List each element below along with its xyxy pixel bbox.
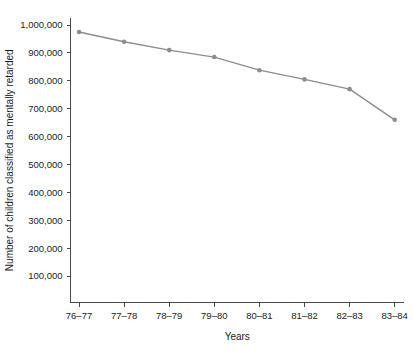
x-axis-tick-label: 80–81 bbox=[246, 310, 272, 321]
x-axis-tick-label: 79–80 bbox=[201, 310, 227, 321]
data-point-marker bbox=[212, 55, 217, 60]
y-axis-tick-label: 1,000,000 bbox=[20, 19, 62, 30]
x-axis-tick-label: 76–77 bbox=[66, 310, 92, 321]
y-axis-tick-label: 100,000 bbox=[28, 270, 62, 281]
y-axis-tick-label: 600,000 bbox=[28, 131, 62, 142]
x-axis-tick-label: 78–79 bbox=[156, 310, 182, 321]
chart-container: 100,000200,000300,000400,000500,000600,0… bbox=[0, 0, 414, 351]
y-axis-tick-label: 200,000 bbox=[28, 243, 62, 254]
data-series-line bbox=[79, 32, 395, 120]
data-point-marker bbox=[122, 39, 127, 44]
y-axis-tick-label: 400,000 bbox=[28, 187, 62, 198]
x-axis-tick-label: 83–84 bbox=[381, 310, 407, 321]
y-axis-tick-label: 900,000 bbox=[28, 47, 62, 58]
x-axis-tick-label: 81–82 bbox=[291, 310, 317, 321]
y-axis-title: Number of children classified as mentall… bbox=[4, 49, 15, 271]
x-axis-tick-label: 82–83 bbox=[336, 310, 362, 321]
data-point-marker bbox=[257, 68, 262, 73]
x-axis-tick-label: 77–78 bbox=[111, 310, 137, 321]
x-axis-tick-group: 76–7777–7878–7979–8080–8181–8282–8383–84 bbox=[66, 303, 408, 321]
data-point-marker bbox=[392, 118, 397, 123]
y-axis-tick-label: 500,000 bbox=[28, 159, 62, 170]
y-axis-tick-label: 700,000 bbox=[28, 103, 62, 114]
line-chart-plot: 100,000200,000300,000400,000500,000600,0… bbox=[0, 0, 414, 351]
data-point-marker-group bbox=[77, 30, 397, 122]
y-axis-tick-group: 100,000200,000300,000400,000500,000600,0… bbox=[20, 19, 70, 281]
data-point-marker bbox=[347, 87, 352, 92]
data-point-marker bbox=[77, 30, 82, 35]
data-point-marker bbox=[302, 77, 307, 82]
y-axis-tick-label: 800,000 bbox=[28, 75, 62, 86]
y-axis-tick-label: 300,000 bbox=[28, 215, 62, 226]
data-point-marker bbox=[167, 48, 172, 53]
x-axis-title: Years bbox=[225, 331, 250, 342]
